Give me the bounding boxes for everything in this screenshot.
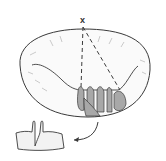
apex-label: x: [80, 15, 85, 25]
resected-segment: [16, 121, 64, 150]
curved-arrow: [74, 122, 98, 140]
